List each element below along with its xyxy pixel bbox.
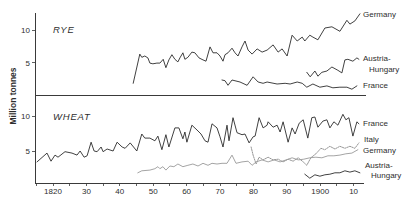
x-tick-label: 80 xyxy=(249,187,258,196)
wheat-series-labels: France Italy Germany Austria- Hungary xyxy=(363,119,401,180)
x-ticks: 182030405060708090190010 xyxy=(36,183,358,196)
x-tick-label: 40 xyxy=(115,187,124,196)
x-tick-label: 90 xyxy=(282,187,291,196)
series-label-wheat-france: France xyxy=(363,119,388,128)
x-tick-label: 50 xyxy=(149,187,158,196)
rye-series-labels: Germany Austria- Hungary France xyxy=(363,10,399,90)
y-tick-label: 10 xyxy=(21,112,30,121)
series-label-wheat-germany: Germany xyxy=(363,146,396,155)
series-line-rye-austria-hungary xyxy=(307,58,359,77)
production-chart: Million tonnes 5 10 5 10 182030405060708… xyxy=(0,0,406,204)
series-label-rye-germany: Germany xyxy=(363,10,396,19)
series-label-rye-austria-hungary-2: Hungary xyxy=(369,65,399,74)
x-tick-label: 10 xyxy=(349,187,358,196)
x-tick-label: 60 xyxy=(182,187,191,196)
rye-y-ticks: 5 10 xyxy=(21,26,35,68)
x-tick-label: 30 xyxy=(82,187,91,196)
panel-title-rye: RYE xyxy=(53,24,75,35)
panel-title-wheat: WHEAT xyxy=(53,111,91,122)
x-tick-label: 1820 xyxy=(44,187,62,196)
series-label-wheat-italy: Italy xyxy=(364,135,379,144)
series-line-rye-france xyxy=(222,77,357,89)
x-tick-label: 70 xyxy=(216,187,225,196)
series-label-rye-france: France xyxy=(363,81,388,90)
y-tick-label: 10 xyxy=(21,26,30,35)
y-tick-label: 5 xyxy=(26,147,31,156)
series-label-wheat-austria-hungary-2: Hungary xyxy=(371,171,401,180)
y-tick-label: 5 xyxy=(26,59,31,68)
series-label-rye-austria-hungary: Austria- xyxy=(363,54,391,63)
y-axis-label: Million tonnes xyxy=(8,67,18,124)
series-line-wheat-germany xyxy=(138,150,358,173)
wheat-y-ticks: 5 10 xyxy=(21,112,35,156)
x-tick-label: 1900 xyxy=(311,187,329,196)
series-label-wheat-austria-hungary: Austria- xyxy=(365,161,393,170)
series-line-wheat-austria-hungary xyxy=(305,171,360,178)
series-layer xyxy=(37,14,360,178)
series-line-rye-germany xyxy=(133,14,360,84)
